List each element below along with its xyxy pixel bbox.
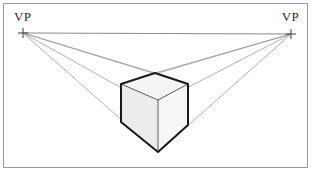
- perspective-diagram: VP VP: [0, 0, 313, 175]
- vanishing-point-label-left: VP: [14, 10, 31, 23]
- perspective-drawing-canvas: [0, 0, 313, 175]
- vanishing-point-label-right: VP: [282, 10, 299, 23]
- horizon-line: [23, 33, 291, 34]
- cube: [121, 73, 188, 152]
